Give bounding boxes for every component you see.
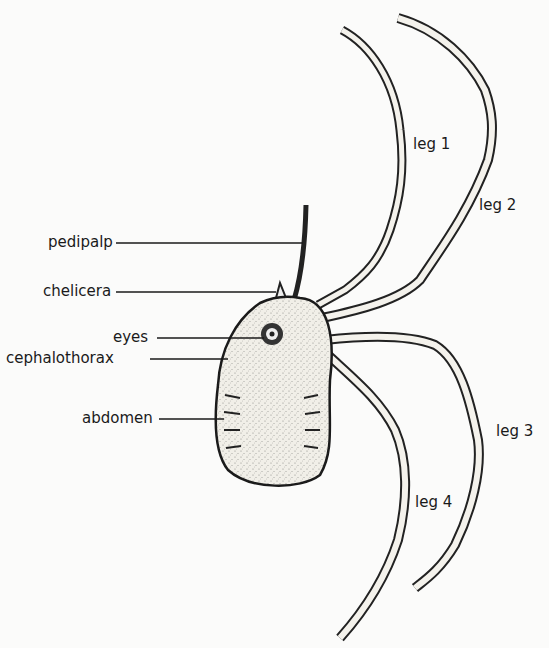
- spider-illustration: [0, 0, 549, 648]
- leg-1: [318, 30, 402, 305]
- label-leg-4: leg 4: [415, 495, 452, 510]
- label-leg-3: leg 3: [496, 424, 533, 439]
- label-chelicera: chelicera: [43, 284, 111, 299]
- eye-tubercle: [261, 323, 283, 345]
- pedipalp-appendage: [294, 205, 306, 300]
- leg-4: [328, 355, 405, 638]
- label-leg-2: leg 2: [479, 198, 516, 213]
- label-abdomen: abdomen: [82, 411, 153, 426]
- label-leg-1: leg 1: [413, 137, 450, 152]
- leg-2: [322, 18, 492, 318]
- label-cephalothorax: cephalothorax: [6, 351, 114, 366]
- label-pedipalp: pedipalp: [48, 235, 113, 250]
- label-eyes: eyes: [113, 330, 148, 345]
